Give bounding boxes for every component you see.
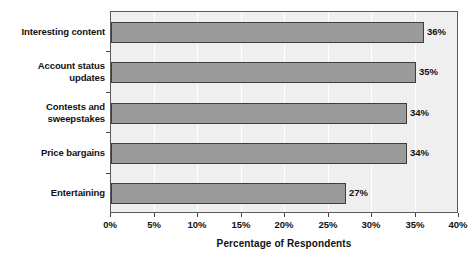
- bar-value-label: 35%: [419, 66, 438, 77]
- y-tick-mark: [106, 173, 110, 174]
- x-tick-label: 35%: [395, 219, 435, 230]
- plot-area: [110, 11, 458, 213]
- x-tick-mark: [284, 213, 285, 217]
- y-tick-mark: [106, 51, 110, 52]
- x-tick-mark: [241, 213, 242, 217]
- bar-value-label: 36%: [427, 26, 446, 37]
- y-axis-label-line: sweepstakes: [0, 113, 105, 125]
- x-tick-mark: [154, 213, 155, 217]
- x-tick-mark: [415, 213, 416, 217]
- x-tick-mark: [371, 213, 372, 217]
- bar-value-label: 34%: [410, 147, 429, 158]
- x-tick-label: 15%: [221, 219, 261, 230]
- x-tick-label: 0%: [90, 219, 130, 230]
- y-axis-label-line: Account status: [0, 60, 105, 72]
- y-axis-label: Entertaining: [0, 187, 105, 199]
- y-axis-label: Account statusupdates: [0, 60, 105, 83]
- y-tick-mark: [106, 92, 110, 93]
- bar: [111, 22, 424, 43]
- y-axis-label-line: Price bargains: [0, 147, 105, 159]
- bar-value-label: 27%: [349, 187, 368, 198]
- y-tick-mark: [106, 132, 110, 133]
- bar-chart: Interesting contentAccount statusupdates…: [0, 0, 472, 264]
- bar: [111, 183, 346, 204]
- bar: [111, 143, 407, 164]
- y-axis-label-line: Interesting content: [0, 26, 105, 38]
- x-tick-label: 20%: [264, 219, 304, 230]
- x-axis-title: Percentage of Respondents: [110, 238, 458, 249]
- x-tick-mark: [197, 213, 198, 217]
- x-tick-label: 25%: [308, 219, 348, 230]
- x-tick-mark: [328, 213, 329, 217]
- y-axis-label: Price bargains: [0, 147, 105, 159]
- x-tick-label: 30%: [351, 219, 391, 230]
- x-tick-mark: [458, 213, 459, 217]
- y-axis-label: Interesting content: [0, 26, 105, 38]
- bar-value-label: 34%: [410, 107, 429, 118]
- y-axis-label-line: Entertaining: [0, 187, 105, 199]
- x-tick-label: 10%: [177, 219, 217, 230]
- x-tick-label: 5%: [134, 219, 174, 230]
- x-tick-mark: [110, 213, 111, 217]
- y-axis-label-line: Contests and: [0, 101, 105, 113]
- y-axis-label-line: updates: [0, 72, 105, 84]
- y-axis-label: Contests andsweepstakes: [0, 101, 105, 124]
- x-tick-label: 40%: [438, 219, 472, 230]
- bar: [111, 103, 407, 124]
- bar: [111, 62, 416, 83]
